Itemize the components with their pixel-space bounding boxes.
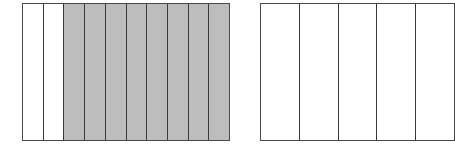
- left-part-8-shaded: [168, 4, 189, 140]
- left-part-1-unshaded: [23, 4, 44, 140]
- left-part-3-shaded: [64, 4, 85, 140]
- right-part-3-unshaded: [339, 4, 378, 140]
- left-part-10-shaded: [209, 4, 229, 140]
- left-part-4-shaded: [85, 4, 106, 140]
- left-part-5-shaded: [106, 4, 127, 140]
- left-part-2-unshaded: [44, 4, 65, 140]
- right-fraction-rectangle: [260, 3, 455, 141]
- left-total-parts: 10: [0, 0, 1, 1]
- right-part-2-unshaded: [300, 4, 339, 140]
- left-part-7-shaded: [147, 4, 168, 140]
- left-shaded-parts: 8: [0, 0, 1, 1]
- right-part-1-unshaded: [261, 4, 300, 140]
- left-part-6-shaded: [127, 4, 148, 140]
- left-part-9-shaded: [189, 4, 210, 140]
- right-part-4-unshaded: [377, 4, 416, 140]
- right-part-5-unshaded: [416, 4, 454, 140]
- left-fraction-rectangle: [22, 3, 230, 141]
